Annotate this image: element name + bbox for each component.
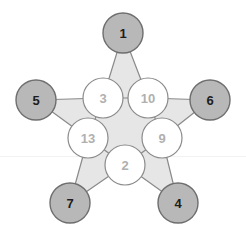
node-inner-left-circle[interactable] [68,118,108,158]
node-inner-bottom-circle[interactable] [105,145,145,185]
node-bottom-right-circle[interactable] [158,183,198,223]
node-right-circle[interactable] [190,80,230,120]
node-top[interactable]: 1 [103,13,143,53]
node-bottom-left[interactable]: 7 [50,183,90,223]
node-inner-upper-left-circle[interactable] [83,78,123,118]
node-top-circle[interactable] [103,13,143,53]
node-left[interactable]: 5 [16,80,56,120]
node-bottom-right[interactable]: 4 [158,183,198,223]
node-inner-right[interactable]: 9 [142,118,182,158]
node-right[interactable]: 6 [190,80,230,120]
node-inner-upper-right[interactable]: 10 [128,78,168,118]
node-inner-upper-left[interactable]: 3 [83,78,123,118]
node-inner-bottom[interactable]: 2 [105,145,145,185]
node-bottom-left-circle[interactable] [50,183,90,223]
node-inner-left[interactable]: 13 [68,118,108,158]
diagram-canvas: 1 5 6 7 4 3 [0,0,246,237]
node-left-circle[interactable] [16,80,56,120]
node-inner-upper-right-circle[interactable] [128,78,168,118]
magic-star-figure: 1 5 6 7 4 3 [0,0,246,237]
node-inner-right-circle[interactable] [142,118,182,158]
